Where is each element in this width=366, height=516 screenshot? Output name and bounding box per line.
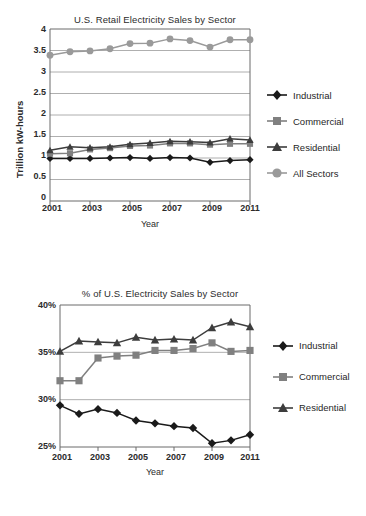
triangle-marker-icon <box>227 318 235 326</box>
square-marker-icon <box>266 114 288 128</box>
chart2-plot-area <box>60 305 250 447</box>
diamond-marker-icon <box>246 430 254 438</box>
diamond-marker-icon <box>75 410 83 418</box>
diamond-marker-icon <box>246 156 253 163</box>
chart2-legend-item-residential[interactable]: Residential <box>272 392 350 423</box>
chart2-legend-item-commercial[interactable]: Commercial <box>272 361 350 392</box>
chart1-legend-label-all-sectors: All Sectors <box>293 168 338 179</box>
chart2-ytick-35: 35% <box>22 347 56 357</box>
chart1-xtick-2001: 2001 <box>32 203 72 213</box>
circle-marker-icon <box>227 36 234 43</box>
diamond-marker-icon <box>106 154 113 161</box>
chart2-legend-label-industrial: Industrial <box>299 340 338 351</box>
chart1-xtick-2009: 2009 <box>192 203 232 213</box>
page-footer-text-fragment <box>0 508 366 516</box>
square-marker-icon <box>75 377 82 384</box>
chart1-legend-label-commercial: Commercial <box>293 116 344 127</box>
diamond-marker-icon <box>132 416 140 424</box>
diamond-marker-icon <box>146 155 153 162</box>
diamond-marker-icon <box>227 436 235 444</box>
chart1-legend: Industrial Commercial Residential All Se… <box>266 82 344 186</box>
square-marker-icon <box>227 348 234 355</box>
chart1-legend-item-residential[interactable]: Residential <box>266 134 344 160</box>
chart1-ytick-4: 4 <box>22 24 46 34</box>
triangle-marker-icon <box>56 347 64 355</box>
chart-retail-electricity-sales: U.S. Retail Electricity Sales by Sector … <box>0 0 366 256</box>
circle-marker-icon <box>87 48 94 55</box>
diamond-marker-icon <box>126 154 133 161</box>
square-marker-icon <box>67 150 73 156</box>
diamond-marker-icon <box>272 339 294 353</box>
diamond-marker-icon <box>266 88 288 102</box>
chart1-ytick-1: 1 <box>22 150 46 160</box>
chart1-legend-item-all-sectors[interactable]: All Sectors <box>266 160 344 186</box>
chart1-title: U.S. Retail Electricity Sales by Sector <box>52 14 258 25</box>
chart2-ytick-25: 25% <box>22 441 56 451</box>
chart2-ytick-30: 30% <box>22 394 56 404</box>
chart1-xtick-2011: 2011 <box>230 203 270 213</box>
circle-marker-icon <box>67 48 74 55</box>
chart2-xtick-2007: 2007 <box>156 452 196 462</box>
chart1-plot-area <box>50 29 250 201</box>
circle-marker-icon <box>247 36 254 43</box>
circle-marker-icon <box>187 37 194 44</box>
chart2-legend-label-commercial: Commercial <box>299 371 350 382</box>
diamond-marker-icon <box>206 159 213 166</box>
chart2-legend: Industrial Commercial Residential <box>272 330 350 423</box>
diamond-marker-icon <box>56 401 64 409</box>
square-marker-icon <box>56 377 63 384</box>
triangle-marker-icon <box>266 140 288 154</box>
circle-marker-icon <box>127 40 134 47</box>
chart1-xtick-2005: 2005 <box>112 203 152 213</box>
square-marker-icon <box>227 141 233 147</box>
chart2-title: % of U.S. Electricity Sales by Sector <box>55 288 265 299</box>
circle-marker-icon <box>167 35 174 42</box>
circle-marker-icon <box>266 166 288 180</box>
chart2-xtick-2009: 2009 <box>194 452 234 462</box>
square-marker-icon <box>132 352 139 359</box>
chart1-ytick-3: 3 <box>22 66 46 76</box>
square-marker-icon <box>189 345 196 352</box>
circle-marker-icon <box>107 45 114 52</box>
chart2-legend-item-industrial[interactable]: Industrial <box>272 330 350 361</box>
diamond-marker-icon <box>166 154 173 161</box>
diamond-marker-icon <box>186 154 193 161</box>
chart2-ytick-40: 40% <box>22 300 56 310</box>
diamond-marker-icon <box>94 405 102 413</box>
chart1-x-axis-label: Year <box>130 219 170 229</box>
square-marker-icon <box>113 353 120 360</box>
diamond-marker-icon <box>86 155 93 162</box>
circle-marker-icon <box>147 40 154 47</box>
circle-marker-icon <box>47 52 54 59</box>
chart1-legend-item-industrial[interactable]: Industrial <box>266 82 344 108</box>
square-marker-icon <box>94 354 101 361</box>
square-marker-icon <box>170 347 177 354</box>
diamond-marker-icon <box>170 422 178 430</box>
chart1-xtick-2003: 2003 <box>72 203 112 213</box>
chart2-legend-label-residential: Residential <box>299 402 346 413</box>
square-marker-icon <box>151 347 158 354</box>
chart2-xtick-2005: 2005 <box>118 452 158 462</box>
chart1-ytick-2p5: 2.5 <box>22 87 46 97</box>
chart1-ytick-0: 0 <box>22 192 46 202</box>
chart1-xtick-2007: 2007 <box>152 203 192 213</box>
chart2-xtick-2001: 2001 <box>42 452 82 462</box>
square-marker-icon <box>246 347 253 354</box>
chart2-xtick-2003: 2003 <box>80 452 120 462</box>
chart1-ytick-1p5: 1.5 <box>22 129 46 139</box>
chart1-legend-label-industrial: Industrial <box>293 90 332 101</box>
chart2-xtick-2011: 2011 <box>230 452 270 462</box>
chart2-x-axis-label: Year <box>135 467 175 477</box>
diamond-marker-icon <box>113 409 121 417</box>
square-marker-icon <box>208 339 215 346</box>
circle-marker-icon <box>207 44 214 51</box>
triangle-marker-icon <box>272 401 294 415</box>
diamond-marker-icon <box>151 419 159 427</box>
chart1-ytick-2: 2 <box>22 108 46 118</box>
triangle-marker-icon <box>132 333 140 341</box>
chart-percent-electricity-sales: % of U.S. Electricity Sales by Sector 40… <box>0 258 366 516</box>
chart1-ytick-0p5: 0.5 <box>22 171 46 181</box>
chart1-legend-item-commercial[interactable]: Commercial <box>266 108 344 134</box>
chart1-ytick-3p5: 3.5 <box>22 45 46 55</box>
square-marker-icon <box>272 370 294 384</box>
